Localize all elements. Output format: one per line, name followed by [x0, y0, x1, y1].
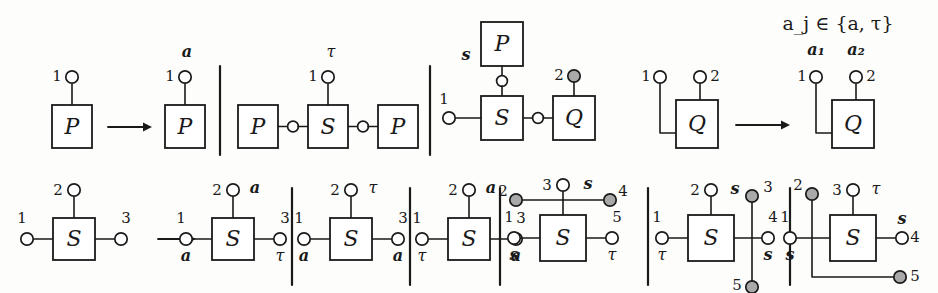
link-port-horizontal — [533, 113, 544, 124]
node-S-vertical-bar-label: S — [703, 225, 718, 250]
node-S-horizontal-bar-label: S — [555, 225, 570, 250]
port-node-1 — [298, 233, 310, 245]
port-number: 4 — [768, 208, 778, 226]
node-P-left-label: P — [250, 114, 267, 139]
port-number: 1 — [504, 208, 514, 226]
node-S-label: S — [494, 105, 509, 130]
port-number: 2 — [330, 181, 340, 199]
action-label: a — [181, 246, 191, 265]
action-label: a — [182, 42, 192, 61]
port-node-3 — [115, 233, 127, 245]
port-node-2 — [568, 70, 580, 82]
port-node-2 — [463, 184, 475, 196]
action-label: τ — [276, 246, 286, 265]
action-label: τ — [608, 245, 618, 264]
node-P-label: P — [177, 114, 194, 139]
action-label: τ — [872, 179, 882, 198]
action-label: a — [299, 246, 309, 265]
port-number: 5 — [910, 267, 920, 285]
transition-arrow-head — [143, 122, 152, 131]
port-node-1 — [322, 71, 334, 83]
action-label: s — [784, 245, 794, 264]
port-number: 2 — [53, 181, 63, 199]
port-node-2 — [806, 188, 818, 200]
port-number: 1 — [17, 209, 27, 227]
port-node-5 — [894, 271, 906, 283]
port-number: 3 — [832, 181, 842, 199]
node-Q-label: Q — [688, 111, 706, 136]
port-node-3 — [274, 233, 286, 245]
node-S-tau-a-a-label: S — [461, 226, 476, 251]
port-number: 4 — [910, 228, 920, 246]
port-node-4 — [762, 232, 774, 244]
node-P-right-label: P — [390, 114, 407, 139]
port-number: 3 — [398, 209, 408, 227]
port-node-1 — [810, 71, 822, 83]
port-number: 1 — [652, 208, 662, 226]
port-node-2 — [68, 184, 80, 196]
port-number: 2 — [710, 67, 720, 85]
port-number: 1 — [641, 67, 651, 85]
action-label: s — [896, 209, 906, 228]
port-1-elbow-wire — [816, 84, 832, 133]
port-number: 2 — [690, 181, 700, 199]
port-node-1 — [508, 232, 520, 244]
port-node-3 — [557, 179, 569, 191]
port-number: 2 — [448, 181, 458, 199]
port-number: 4 — [618, 182, 628, 200]
port-node-1 — [784, 232, 796, 244]
port-node-2 — [705, 184, 717, 196]
node-S-plain-label: S — [66, 226, 81, 251]
action-label: s — [460, 45, 470, 64]
port-number: 5 — [612, 208, 622, 226]
action-label: a — [486, 178, 496, 197]
port-number: 3 — [516, 209, 526, 227]
port-number: 1 — [797, 67, 807, 85]
port-number: 1 — [412, 209, 422, 227]
port-number: 1 — [176, 209, 186, 227]
action-label: a₂ — [847, 40, 864, 59]
port-number: 2 — [554, 66, 564, 84]
link-port-left — [288, 121, 299, 132]
port-node-1 — [656, 232, 668, 244]
port-node-3 — [746, 190, 758, 202]
diagram-svg: 1P1aPPS1τPPsS1Q212Qa_j ∈ {a, τ}1a₁2a₂Q21… — [0, 0, 938, 293]
link-port-right — [358, 121, 369, 132]
action-label: τ — [369, 178, 379, 197]
port-node-5 — [746, 281, 758, 293]
action-label: s — [762, 245, 772, 264]
node-S-label: S — [320, 114, 335, 139]
port-node-5 — [606, 232, 618, 244]
port-node-1 — [21, 233, 33, 245]
port-1-elbow-wire — [660, 84, 676, 133]
action-label: a — [393, 246, 403, 265]
port-node-3 — [392, 233, 404, 245]
port-node-4 — [604, 194, 616, 206]
action-label: s — [729, 179, 739, 198]
port-node-1 — [179, 71, 191, 83]
port-number: 1 — [308, 67, 318, 85]
port-number: 3 — [763, 178, 773, 196]
port-number: 1 — [780, 208, 790, 226]
action-label: s — [582, 174, 592, 193]
port-number: 1 — [439, 90, 449, 108]
port-number: 5 — [732, 276, 742, 293]
port-node-2 — [694, 71, 706, 83]
condition-note: a_j ∈ {a, τ} — [783, 12, 894, 35]
port-node-1 — [443, 112, 455, 124]
figure-canvas: 1P1aPPS1τPPsS1Q212Qa_j ∈ {a, τ}1a₁2a₂Q21… — [0, 0, 938, 293]
node-Q-label: Q — [565, 105, 583, 130]
port-number: 3 — [542, 176, 552, 194]
node-P-top-label: P — [494, 31, 511, 56]
port-node-2 — [850, 71, 862, 83]
port-number: 2 — [866, 67, 876, 85]
port-number: 2 — [498, 182, 508, 200]
node-S-elbow-bar-label: S — [845, 225, 860, 250]
port-node-2 — [510, 194, 522, 206]
port-number: 3 — [121, 209, 131, 227]
port-node-1 — [416, 233, 428, 245]
port-number: 1 — [165, 67, 175, 85]
action-label: τ — [418, 246, 428, 265]
port-number: 2 — [793, 176, 803, 194]
port-node-1 — [180, 233, 192, 245]
